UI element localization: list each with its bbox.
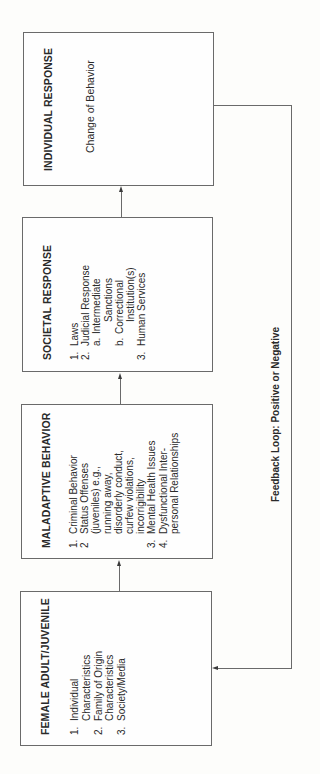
item-number: 2 [79, 542, 90, 548]
female-adult-juvenile-title: FEMALE ADULT/JUVENILE [39, 595, 51, 735]
sub-item: b. Correctional Institution(s) [114, 220, 136, 346]
sub-item-letter: b. [114, 338, 125, 346]
list-item: 1. Laws [69, 220, 80, 360]
female-adult-juvenile-list: 1. Individual Characteristics 2. Family … [69, 595, 128, 735]
list-item: 1. Criminal Behavior [68, 408, 79, 548]
item-text: disorderly conduct, [113, 408, 124, 534]
item-number: 1. [68, 540, 79, 548]
arrowhead-icon [117, 560, 121, 566]
arrowhead-icon [119, 186, 123, 192]
item-text: Dysfunctional Inter- [158, 408, 169, 534]
item-text: Mental Health Issues [146, 408, 157, 534]
feedback-line-vertical [291, 105, 292, 669]
societal-response-box: SOCIETAL RESPONSE 1. Laws 2. Judicial Re… [22, 217, 213, 372]
item-number: 2. [80, 352, 91, 360]
item-text: running away, [102, 408, 113, 534]
item-text: Characteristics [81, 595, 93, 721]
item-number: 2. [93, 727, 105, 735]
item-text: Individual [69, 595, 81, 721]
maladaptive-behavior-list: 1. Criminal Behavior 2 Status Offenses (… [68, 408, 180, 548]
feedback-loop-label: Feedback Loop: Positive or Negative [270, 327, 281, 502]
connector-maladaptive-to-societal [120, 379, 121, 404]
item-text: (juveniles) e.g., [90, 408, 101, 534]
list-item: 3. Human Services [136, 220, 147, 360]
maladaptive-behavior-box: MALADAPTIVE BEHAVIOR 1. Criminal Behavio… [21, 404, 213, 559]
individual-response-box: INDIVIDUAL RESPONSE Change of Behavior [23, 32, 214, 186]
list-item: 4. Dysfunctional Inter- personal Relatio… [158, 408, 180, 548]
item-number: 3. [116, 727, 128, 735]
sub-item: a. Intermediate Sanctions [91, 220, 113, 346]
sub-item-text: Intermediate [91, 220, 102, 334]
list-item: 2. Family of Origin Characteristics [93, 595, 117, 735]
list-item: 2. Judicial Response a. Intermediate San… [80, 220, 136, 360]
maladaptive-behavior-title: MALADAPTIVE BEHAVIOR [40, 408, 52, 548]
connector-female-to-maladaptive [119, 566, 120, 591]
connector-societal-to-individual [121, 192, 122, 217]
list-item: 3. Society/Media [116, 595, 128, 735]
societal-response-title: SOCIETAL RESPONSE [41, 220, 53, 360]
item-text: Laws [69, 220, 80, 346]
item-text: incorrigibility [135, 408, 146, 534]
item-text: personal Relationships [169, 408, 180, 534]
arrowhead-icon [212, 666, 218, 670]
item-text: Characteristics [104, 595, 116, 721]
list-item: 2 Status Offenses (juveniles) e.g., runn… [79, 408, 146, 548]
item-text: Status Offenses [79, 408, 90, 534]
item-text: Criminal Behavior [68, 408, 79, 534]
list-item: 3. Mental Health Issues [146, 408, 157, 548]
item-text: curfew violations, [124, 408, 135, 534]
item-number: 4. [158, 540, 169, 548]
arrowhead-icon [118, 373, 122, 379]
item-text: Family of Origin [93, 595, 105, 721]
feedback-line-bottom [218, 668, 292, 669]
feedback-line-top [213, 105, 292, 106]
individual-response-title: INDIVIDUAL RESPONSE [42, 41, 54, 171]
item-number: 3. [136, 352, 147, 360]
sub-item-text: Institution(s) [125, 220, 136, 334]
item-text: Human Services [136, 220, 147, 346]
sub-item-text: Sanctions [103, 220, 114, 334]
female-adult-juvenile-box: FEMALE ADULT/JUVENILE 1. Individual Char… [20, 591, 212, 746]
item-text: Judicial Response [80, 220, 91, 346]
list-item: 1. Individual Characteristics [69, 595, 93, 735]
sub-item-letter: a. [91, 338, 102, 346]
individual-response-text: Change of Behavior [84, 41, 96, 171]
item-number: 3. [146, 540, 157, 548]
sub-item-text: Correctional [114, 220, 125, 334]
item-number: 1. [69, 727, 81, 735]
item-text: Society/Media [116, 595, 128, 721]
item-number: 1. [69, 352, 80, 360]
societal-response-list: 1. Laws 2. Judicial Response a. Intermed… [69, 220, 147, 360]
